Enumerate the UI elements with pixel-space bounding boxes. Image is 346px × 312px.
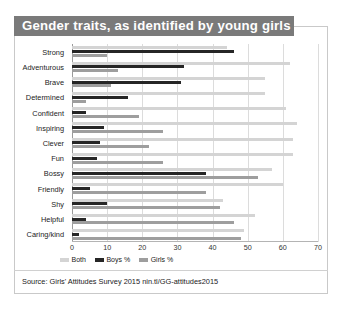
bar-girls bbox=[72, 221, 234, 224]
x-tick-label: 30 bbox=[173, 243, 181, 252]
bar-group bbox=[72, 212, 318, 227]
category-label: Friendly bbox=[38, 184, 64, 193]
bar-rows bbox=[72, 44, 318, 242]
bar-boys bbox=[72, 81, 181, 84]
bar-both bbox=[72, 107, 286, 110]
bar-both bbox=[72, 77, 265, 80]
bar-both bbox=[72, 92, 265, 95]
source-note: Source: Girls' Attitudes Survey 2015 nin… bbox=[22, 277, 218, 286]
category-label: Fun bbox=[51, 154, 64, 163]
category-label: Adventurous bbox=[23, 62, 65, 71]
bar-group bbox=[72, 227, 318, 242]
bar-boys bbox=[72, 187, 90, 190]
x-axis-line bbox=[72, 241, 318, 242]
value-axis: 010203040506070 bbox=[72, 243, 318, 255]
chart-screenshot: Gender traits, as identified by young gi… bbox=[0, 0, 346, 312]
chart-legend: BothBoys %Girls % bbox=[60, 256, 173, 263]
legend-label: Both bbox=[72, 256, 86, 263]
bar-boys bbox=[72, 50, 234, 53]
category-label: Brave bbox=[45, 78, 64, 87]
bar-both bbox=[72, 153, 293, 156]
bar-group bbox=[72, 90, 318, 105]
category-label: Strong bbox=[42, 47, 64, 56]
x-tick-label: 40 bbox=[209, 243, 217, 252]
category-label: Caring/kind bbox=[27, 230, 64, 239]
bar-both bbox=[72, 46, 227, 49]
bar-boys bbox=[72, 233, 79, 236]
bar-group bbox=[72, 181, 318, 196]
x-tick-label: 20 bbox=[138, 243, 146, 252]
bar-both bbox=[72, 138, 293, 141]
bar-girls bbox=[72, 100, 86, 103]
legend-swatch-girls bbox=[139, 258, 148, 262]
bar-group bbox=[72, 196, 318, 211]
bar-boys bbox=[72, 172, 206, 175]
x-tick-label: 70 bbox=[314, 243, 322, 252]
bar-group bbox=[72, 44, 318, 59]
plot-area bbox=[72, 44, 318, 242]
bar-group bbox=[72, 166, 318, 181]
bar-girls bbox=[72, 115, 139, 118]
bar-boys bbox=[72, 111, 86, 114]
bar-both bbox=[72, 183, 283, 186]
bar-boys bbox=[72, 65, 184, 68]
x-tick-label: 0 bbox=[70, 243, 74, 252]
category-label: Bossy bbox=[44, 169, 64, 178]
legend-label: Girls % bbox=[151, 256, 174, 263]
bar-group bbox=[72, 59, 318, 74]
bar-girls bbox=[72, 161, 163, 164]
bar-both bbox=[72, 122, 297, 125]
x-tick-label: 60 bbox=[279, 243, 287, 252]
bar-boys bbox=[72, 141, 100, 144]
bar-group bbox=[72, 74, 318, 89]
bar-group bbox=[72, 105, 318, 120]
category-axis: StrongAdventurousBraveDeterminedConfiden… bbox=[0, 44, 68, 242]
bar-boys bbox=[72, 96, 128, 99]
bar-boys bbox=[72, 218, 86, 221]
bar-boys bbox=[72, 202, 107, 205]
chart-title: Gender traits, as identified by young gi… bbox=[14, 16, 294, 36]
legend-swatch-both bbox=[60, 258, 69, 262]
bar-girls bbox=[72, 145, 149, 148]
bar-girls bbox=[72, 130, 163, 133]
bar-girls bbox=[72, 237, 241, 240]
footer-divider bbox=[14, 270, 328, 271]
bar-girls bbox=[72, 54, 107, 57]
bar-group bbox=[72, 151, 318, 166]
legend-label: Boys % bbox=[106, 256, 130, 263]
bar-boys bbox=[72, 126, 104, 129]
bar-both bbox=[72, 168, 272, 171]
bar-girls bbox=[72, 69, 118, 72]
category-label: Shy bbox=[51, 199, 64, 208]
bar-girls bbox=[72, 191, 206, 194]
category-label: Confident bbox=[32, 108, 64, 117]
category-label: Determined bbox=[26, 93, 64, 102]
legend-item-girls[interactable]: Girls % bbox=[139, 256, 173, 263]
legend-item-both[interactable]: Both bbox=[60, 256, 86, 263]
category-label: Clever bbox=[43, 139, 64, 148]
bar-boys bbox=[72, 157, 97, 160]
bar-group bbox=[72, 135, 318, 150]
bar-girls bbox=[72, 176, 258, 179]
bar-girls bbox=[72, 206, 220, 209]
gridline-70 bbox=[318, 44, 319, 242]
legend-item-boys[interactable]: Boys % bbox=[95, 256, 130, 263]
category-label: Inspiring bbox=[36, 123, 64, 132]
x-tick-label: 50 bbox=[244, 243, 252, 252]
bar-both bbox=[72, 62, 290, 65]
category-label: Helpful bbox=[41, 215, 64, 224]
legend-swatch-boys bbox=[95, 258, 104, 262]
x-tick-label: 10 bbox=[103, 243, 111, 252]
bar-both bbox=[72, 199, 223, 202]
bar-both bbox=[72, 229, 244, 232]
bar-group bbox=[72, 120, 318, 135]
bar-both bbox=[72, 214, 255, 217]
bar-girls bbox=[72, 84, 111, 87]
